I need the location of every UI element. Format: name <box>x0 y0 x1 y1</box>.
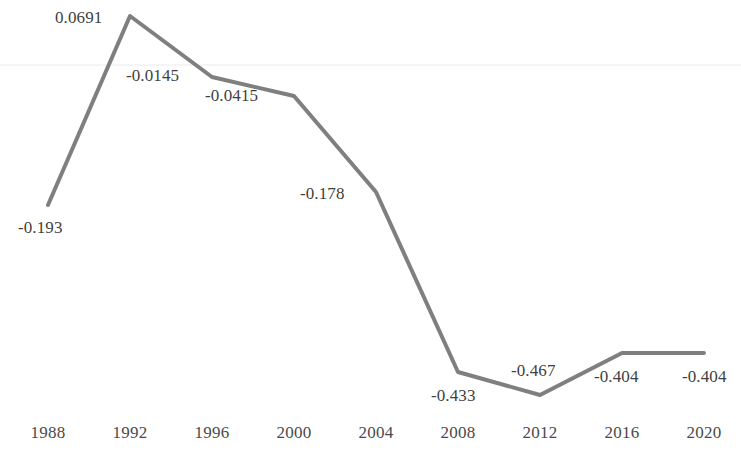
line-chart: -0.1930.0691-0.0145-0.0415-0.178-0.433-0… <box>0 0 741 455</box>
data-label-2008: -0.433 <box>431 386 476 405</box>
x-axis: 198819921996200020042008201220162020 <box>0 415 741 455</box>
data-label-1996: -0.0145 <box>126 66 179 85</box>
data-label-1988: -0.193 <box>18 218 63 237</box>
plot-area: -0.1930.0691-0.0145-0.0415-0.178-0.433-0… <box>0 0 741 415</box>
x-axis-tick-1992: 1992 <box>113 423 148 443</box>
data-label-2004: -0.178 <box>300 184 345 203</box>
x-axis-tick-2008: 2008 <box>441 423 476 443</box>
data-label-2020: -0.404 <box>682 367 727 386</box>
x-axis-tick-2020: 2020 <box>687 423 722 443</box>
x-axis-tick-1988: 1988 <box>31 423 66 443</box>
chart-canvas <box>0 0 741 415</box>
data-label-2016: -0.404 <box>594 367 639 386</box>
data-label-1992: 0.0691 <box>55 8 102 27</box>
data-label-2012: -0.467 <box>511 361 556 380</box>
x-axis-tick-2004: 2004 <box>359 423 394 443</box>
x-axis-tick-2000: 2000 <box>277 423 312 443</box>
x-axis-tick-1996: 1996 <box>195 423 230 443</box>
x-axis-tick-2012: 2012 <box>523 423 558 443</box>
data-label-2000: -0.0415 <box>205 86 258 105</box>
x-axis-tick-2016: 2016 <box>605 423 640 443</box>
